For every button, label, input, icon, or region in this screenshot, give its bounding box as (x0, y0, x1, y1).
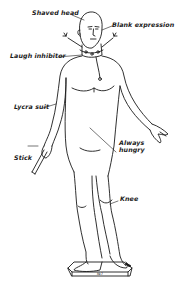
label-lycra-suit: Lycra suit (14, 104, 49, 111)
label-laugh-inhibitor: Laugh inhibitor (10, 53, 66, 60)
body-drawing (44, 56, 168, 176)
label-shaved-head: Shaved head (32, 10, 79, 17)
collar-drawing (63, 33, 117, 80)
pedestal-mark: №7 (97, 272, 103, 276)
illustration: №7 Shaved head Blank expression Laugh in… (0, 0, 185, 290)
legs-drawing (74, 172, 128, 272)
head-drawing (78, 12, 102, 48)
label-blank-expression: Blank expression (112, 22, 174, 29)
label-always-hungry: Always hungry (119, 140, 145, 153)
stick-drawing (32, 146, 52, 174)
figure-drawing: №7 (0, 0, 185, 290)
label-stick: Stick (14, 155, 32, 162)
label-knee: Knee (120, 196, 138, 203)
